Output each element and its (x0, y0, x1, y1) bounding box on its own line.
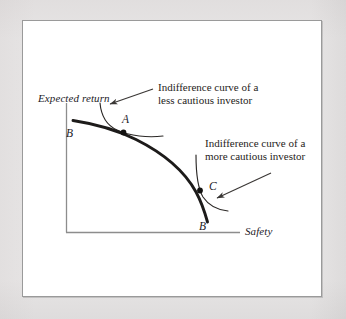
annotation-less-cautious: Indifference curve of a less cautious in… (158, 81, 258, 107)
point-label-b-upper: B (66, 127, 73, 140)
x-axis-label: Safety (245, 225, 272, 238)
y-axis-label: Expected return (38, 92, 110, 105)
annotation-more-cautious: Indifference curve of a more cautious in… (205, 137, 305, 163)
annotation-less-cautious-line1: Indifference curve of a (158, 81, 258, 94)
point-label-b-lower: B (199, 220, 206, 233)
annotation-more-cautious-line2: more cautious investor (205, 150, 305, 163)
point-label-c: C (209, 180, 217, 193)
annotation-more-cautious-line1: Indifference curve of a (205, 137, 305, 150)
figure-root: Expected return Safety B A C B Indiffere… (0, 0, 346, 319)
annotation-less-cautious-line2: less cautious investor (158, 94, 258, 107)
point-label-a: A (122, 113, 129, 126)
